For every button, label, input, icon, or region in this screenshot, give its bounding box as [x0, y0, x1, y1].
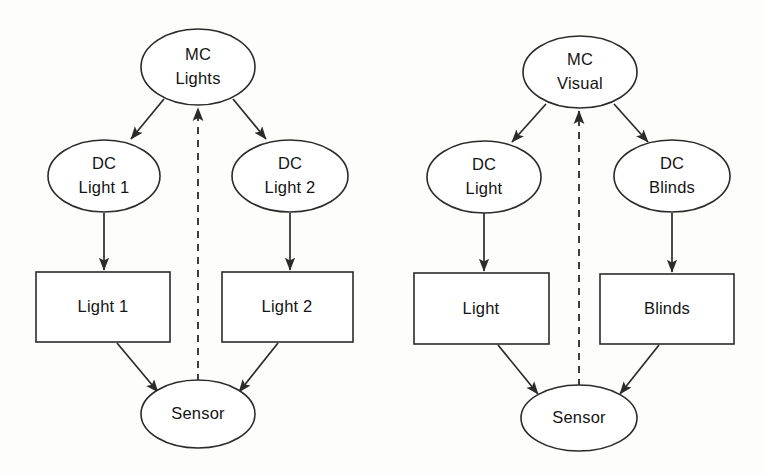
node-blinds[interactable]: Blinds — [600, 274, 734, 344]
node-light-label: Light — [463, 299, 500, 317]
node-dc-light-1-label-line1: DC — [92, 154, 116, 172]
node-dc-light-1-ellipse[interactable] — [48, 140, 160, 212]
node-mc-lights-label-line1: MC — [185, 45, 211, 63]
node-dc-light[interactable]: DC Light — [427, 141, 541, 213]
node-dc-light-2[interactable]: DC Light 2 — [232, 140, 348, 212]
node-mc-visual-ellipse[interactable] — [523, 36, 637, 108]
diagram-lights-control: MC Lights DC Light 1 DC Light 2 Light 1 — [36, 29, 353, 448]
node-dc-light-1[interactable]: DC Light 1 — [48, 140, 160, 212]
node-mc-lights[interactable]: MC Lights — [141, 29, 255, 105]
node-sensor-lights-label: Sensor — [171, 404, 225, 422]
edge-light-to-sensor — [498, 345, 538, 394]
node-dc-light-2-label-line1: DC — [278, 154, 302, 172]
node-dc-blinds[interactable]: DC Blinds — [614, 140, 730, 212]
node-dc-light-1-label-line2: Light 1 — [79, 178, 130, 196]
node-sensor-visual[interactable]: Sensor — [521, 385, 637, 451]
node-light-1-label: Light 1 — [78, 297, 129, 315]
node-dc-blinds-label-line1: DC — [660, 154, 684, 172]
edge-mc-to-dc-light-1 — [131, 99, 164, 139]
node-light[interactable]: Light — [414, 273, 549, 344]
edge-mc-visual-to-dc-blinds — [614, 104, 648, 142]
edge-light-1-to-sensor — [117, 343, 158, 392]
node-dc-blinds-ellipse[interactable] — [614, 140, 730, 212]
node-sensor-visual-label: Sensor — [552, 408, 606, 426]
node-dc-light-2-label-line2: Light 2 — [265, 178, 316, 196]
edge-light-2-to-sensor — [239, 343, 278, 392]
node-dc-light-label-line1: DC — [472, 155, 496, 173]
node-mc-visual-label-line1: MC — [567, 50, 593, 68]
node-light-2[interactable]: Light 2 — [222, 272, 353, 342]
node-dc-light-ellipse[interactable] — [427, 141, 541, 213]
node-light-2-label: Light 2 — [262, 297, 313, 315]
diagram-root: MC Lights DC Light 1 DC Light 2 Light 1 — [0, 0, 764, 475]
node-mc-visual[interactable]: MC Visual — [523, 36, 637, 108]
node-dc-light-2-ellipse[interactable] — [232, 140, 348, 212]
edge-mc-visual-to-dc-light — [512, 104, 546, 142]
node-mc-lights-label-line2: Lights — [175, 69, 220, 87]
node-mc-lights-ellipse[interactable] — [141, 29, 255, 105]
node-light-1[interactable]: Light 1 — [36, 272, 170, 342]
node-mc-visual-label-line2: Visual — [557, 74, 603, 92]
diagram-canvas: MC Lights DC Light 1 DC Light 2 Light 1 — [0, 0, 764, 475]
diagram-visual-control: MC Visual DC Light DC Blinds Light — [414, 36, 734, 451]
node-dc-light-label-line2: Light — [466, 179, 503, 197]
node-sensor-lights[interactable]: Sensor — [141, 380, 255, 448]
node-dc-blinds-label-line2: Blinds — [649, 178, 695, 196]
edge-blinds-to-sensor — [620, 345, 659, 394]
edge-mc-to-dc-light-2 — [233, 99, 266, 139]
node-blinds-label: Blinds — [644, 299, 690, 317]
